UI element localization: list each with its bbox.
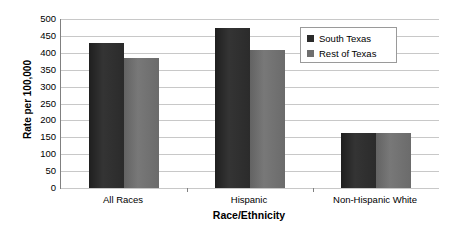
y-tick-label-0: 0 [22, 183, 56, 193]
y-tick-label-150: 150 [22, 132, 56, 142]
x-axis-category-labels: All RacesHispanicNon-Hispanic White [60, 194, 438, 208]
category-separator-1 [187, 188, 188, 192]
legend-label-1: Rest of Texas [319, 49, 376, 59]
chart-legend: South Texas Rest of Texas [300, 27, 397, 63]
bar-group-1 [215, 19, 285, 188]
category-separator-2 [313, 188, 314, 192]
y-tick-label-250: 250 [22, 99, 56, 109]
bar-chart: Rate per 100,000 50045040035030025020015… [0, 0, 460, 243]
bar-1-0[interactable] [215, 28, 250, 188]
gridline-0 [61, 188, 439, 189]
legend-swatch-icon-0 [307, 35, 314, 42]
category-label-2: Non-Hispanic White [312, 194, 438, 205]
bar-group-0 [89, 19, 159, 188]
legend-item-0: South Texas [307, 31, 396, 46]
y-tick-label-100: 100 [22, 149, 56, 159]
legend-label-0: South Texas [319, 34, 371, 44]
bar-1-1[interactable] [250, 50, 285, 188]
y-tick-label-300: 300 [22, 82, 56, 92]
bar-2-1[interactable] [376, 133, 411, 188]
y-tick-label-350: 350 [22, 65, 56, 75]
y-tick-label-50: 50 [22, 166, 56, 176]
y-tick-label-400: 400 [22, 48, 56, 58]
legend-item-1: Rest of Texas [307, 46, 396, 61]
x-axis-title: Race/Ethnicity [60, 209, 438, 221]
y-tick-label-500: 500 [22, 14, 56, 24]
y-tick-label-450: 450 [22, 31, 56, 41]
bar-0-0[interactable] [89, 43, 124, 188]
category-label-1: Hispanic [186, 194, 312, 205]
bar-0-1[interactable] [124, 58, 159, 188]
y-tick-label-200: 200 [22, 115, 56, 125]
category-label-0: All Races [60, 194, 186, 205]
bar-2-0[interactable] [341, 133, 376, 188]
legend-swatch-icon-1 [307, 50, 314, 57]
y-axis-tick-labels: 500450400350300250200150100500 [22, 19, 56, 188]
